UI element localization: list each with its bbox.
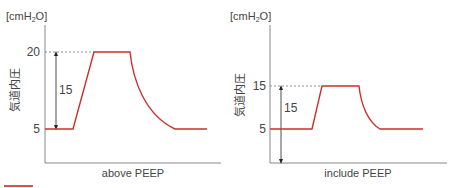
right-chart: [cmH2O] 15 5 気道内圧 15 include PEEP bbox=[230, 10, 447, 179]
left-unit-label: [cmH2O] bbox=[6, 10, 47, 23]
right-diff-label: 15 bbox=[284, 101, 298, 115]
left-y-label: 気道内圧 bbox=[8, 68, 21, 112]
left-chart: [cmH2O] 20 5 気道内圧 15 above PEEP bbox=[6, 10, 221, 179]
left-tick-20: 20 bbox=[27, 45, 41, 59]
right-tick-5: 5 bbox=[259, 122, 266, 136]
right-unit-label: [cmH2O] bbox=[230, 10, 271, 23]
left-tick-5: 5 bbox=[33, 122, 40, 136]
right-tick-15: 15 bbox=[253, 79, 267, 93]
right-y-label: 気道内圧 bbox=[233, 73, 246, 117]
right-x-label: include PEEP bbox=[324, 167, 391, 179]
charts-canvas: [cmH2O] 20 5 気道内圧 15 above PEEP [cmH2O] … bbox=[0, 0, 456, 188]
left-x-label: above PEEP bbox=[102, 167, 164, 179]
left-diff-label: 15 bbox=[59, 83, 73, 97]
